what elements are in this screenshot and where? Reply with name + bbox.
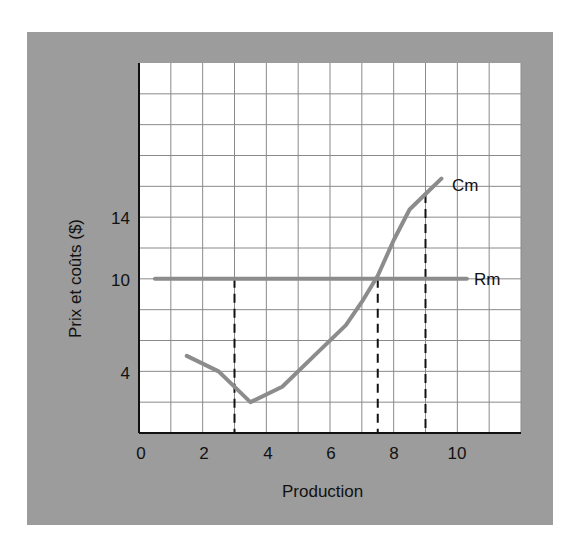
x-tick-8: 8: [379, 444, 409, 464]
x-tick-0: 0: [126, 444, 156, 464]
x-tick-2: 2: [189, 444, 219, 464]
x-axis-label: Production: [282, 482, 363, 502]
y-tick-10: 10: [90, 271, 130, 291]
y-tick-14: 14: [90, 209, 130, 229]
rm-line-label: Rm: [474, 270, 500, 290]
y-tick-4: 4: [90, 364, 130, 384]
x-tick-10: 10: [442, 444, 472, 464]
x-tick-6: 6: [316, 444, 346, 464]
y-axis-label: Prix et coûts ($): [66, 219, 86, 338]
x-tick-4: 4: [253, 444, 283, 464]
cm-curve-label: Cm: [452, 176, 478, 196]
